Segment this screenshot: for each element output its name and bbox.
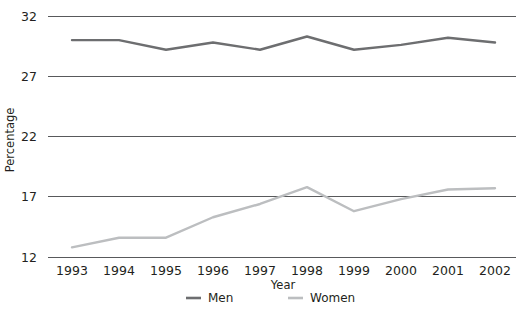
x-tick-label: 1994 (103, 263, 135, 278)
legend-label-women: Women (310, 291, 355, 305)
x-tick-label: 1996 (197, 263, 229, 278)
x-tick-label: 1999 (338, 263, 370, 278)
chart-canvas: 1217222732 19931994199519961997199819992… (0, 0, 526, 318)
x-axis-title: Year (270, 278, 296, 292)
y-tick-label: 27 (21, 69, 37, 84)
y-tick-label: 32 (21, 9, 37, 24)
x-tick-label: 1997 (244, 263, 276, 278)
x-tick-label: 1995 (150, 263, 182, 278)
y-tick-label: 22 (21, 129, 37, 144)
legend-label-men: Men (208, 291, 233, 305)
y-tick-label: 12 (21, 250, 37, 265)
x-tick-label: 2002 (479, 263, 511, 278)
x-tick-label: 1993 (56, 263, 88, 278)
y-axis-title: Percentage (3, 108, 17, 173)
x-tick-label: 2001 (432, 263, 464, 278)
y-tick-label: 17 (21, 189, 37, 204)
line-chart: 1217222732 19931994199519961997199819992… (0, 0, 526, 318)
x-tick-label: 1998 (291, 263, 323, 278)
x-tick-label: 2000 (385, 263, 417, 278)
